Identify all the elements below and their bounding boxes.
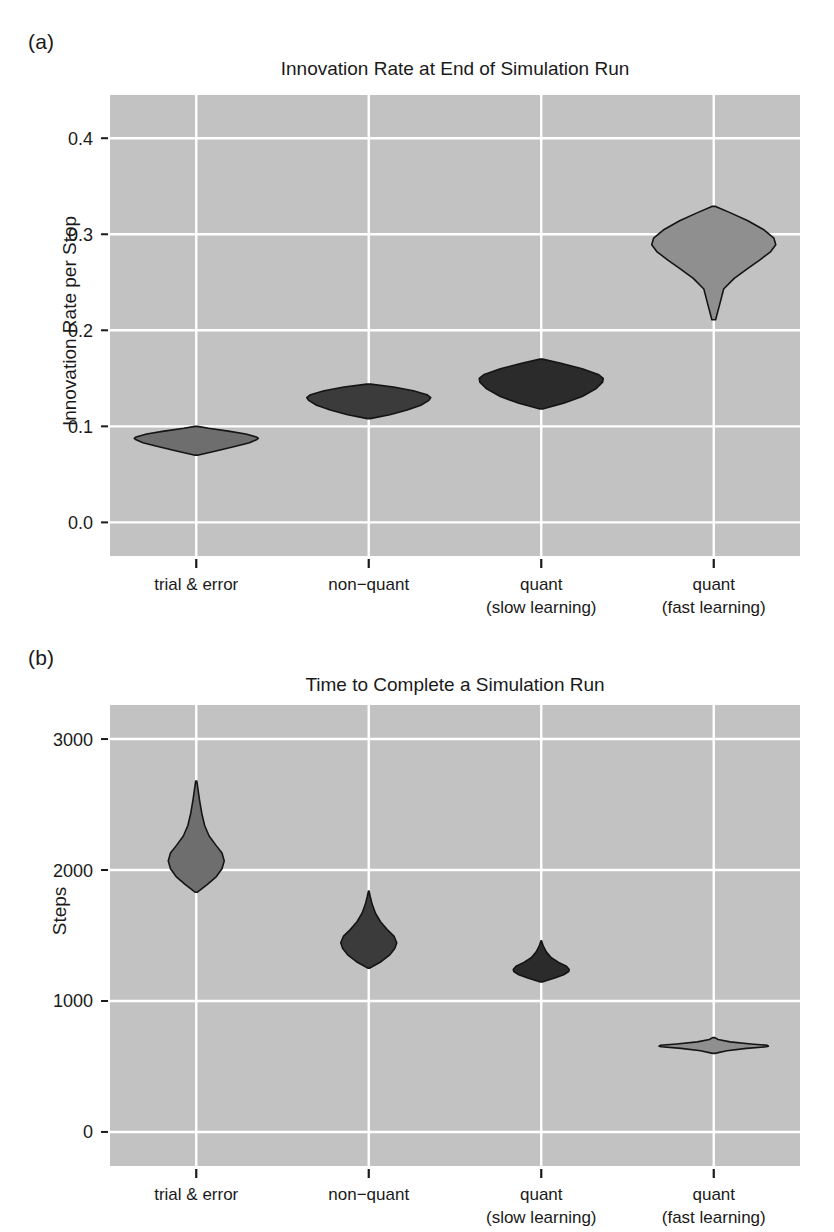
x-tick-label: non−quant [328, 575, 409, 594]
y-tick-label: 3000 [53, 730, 93, 750]
y-tick-label: 0.1 [68, 417, 93, 437]
y-tick-label: 0.4 [68, 129, 93, 149]
y-tick-label: 0.3 [68, 225, 93, 245]
x-tick-label-line2: (slow learning) [486, 1208, 597, 1227]
x-tick-label: trial & error [154, 575, 238, 594]
x-tick-label: quant [692, 575, 735, 594]
panel-b-y-axis-label: Steps [49, 841, 71, 981]
x-tick-label-line2: (slow learning) [486, 598, 597, 616]
x-tick-label: quant [520, 1185, 563, 1204]
y-tick-label: 0.0 [68, 513, 93, 533]
panel-a-plot: 0.00.10.20.30.4trial & errornon−quantqua… [0, 0, 834, 616]
x-tick-label: non−quant [328, 1185, 409, 1204]
plot-background [110, 95, 800, 556]
x-tick-label-line2: (fast learning) [662, 1208, 766, 1227]
y-tick-label: 0.2 [68, 321, 93, 341]
y-tick-label: 1000 [53, 991, 93, 1011]
x-tick-label: quant [520, 575, 563, 594]
panel-a: (a) Innovation Rate at End of Simulation… [0, 0, 834, 616]
panel-b-plot: 0100020003000trial & errornon−quantquant… [0, 616, 834, 1232]
x-tick-label: quant [692, 1185, 735, 1204]
y-tick-label: 0 [83, 1122, 93, 1142]
x-tick-label: trial & error [154, 1185, 238, 1204]
plot-background [110, 705, 800, 1166]
x-tick-label-line2: (fast learning) [662, 598, 766, 616]
figure-container: (a) Innovation Rate at End of Simulation… [0, 0, 834, 1232]
panel-b: (b) Time to Complete a Simulation Run 01… [0, 616, 834, 1232]
